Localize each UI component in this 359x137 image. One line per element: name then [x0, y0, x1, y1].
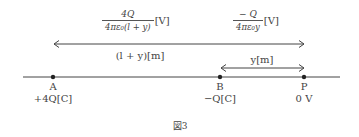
potential-b-numerator: − Q [236, 9, 260, 20]
point-b-charge: −Q[C] [204, 93, 236, 104]
potential-a-fraction: 4Q 4πε₀(l + y) [V] [102, 9, 170, 32]
point-a-charge: +4Q[C] [34, 93, 72, 104]
point-p-name: P [301, 81, 308, 92]
distance-bp-label: y[m] [251, 54, 274, 65]
distance-arrow-ap [54, 41, 304, 48]
potential-a-denominator: 4πε₀(l + y) [102, 20, 154, 32]
figure-caption: 図3 [173, 121, 188, 132]
point-b-name: B [216, 81, 223, 92]
distance-ap-label: (l + y)[m] [116, 50, 165, 61]
potential-a-numerator: 4Q [118, 9, 137, 20]
potential-a-unit: [V] [155, 15, 170, 26]
point-a-name: A [49, 81, 56, 92]
point-p-potential: 0 V [296, 93, 313, 104]
point-b-dot [218, 75, 222, 79]
potential-b-unit: [V] [264, 15, 279, 26]
potential-b-fraction: − Q 4πε₀y [V] [233, 9, 279, 32]
point-p-dot [302, 75, 306, 79]
distance-arrow-bp [221, 65, 304, 72]
diagram-graphics [0, 0, 359, 137]
point-a-dot [51, 75, 55, 79]
potential-b-denominator: 4πε₀y [233, 20, 263, 32]
